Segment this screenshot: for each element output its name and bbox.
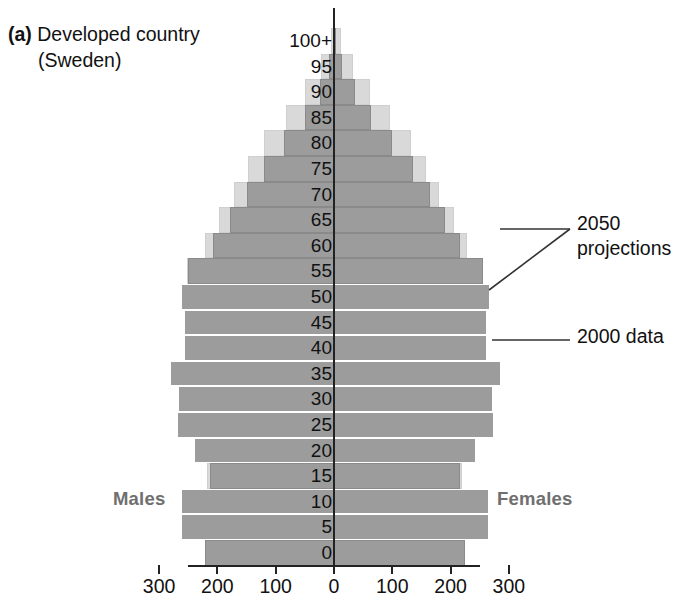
bar-2000-female bbox=[334, 489, 489, 515]
age-band bbox=[0, 130, 690, 156]
bar-2000-female bbox=[334, 463, 460, 489]
age-band bbox=[0, 105, 690, 131]
bar-2000-female bbox=[334, 207, 445, 233]
age-label: 55 bbox=[266, 258, 332, 284]
age-band bbox=[0, 514, 690, 540]
bar-2000-female bbox=[334, 105, 371, 131]
age-label: 85 bbox=[266, 105, 332, 131]
bar-2000-female bbox=[334, 310, 487, 336]
age-label: 80 bbox=[266, 130, 332, 156]
age-band bbox=[0, 412, 690, 438]
bar-2000-female bbox=[334, 54, 342, 80]
annotation-2050-projections: 2050 projections bbox=[577, 211, 671, 262]
bar-2000-female bbox=[334, 361, 501, 387]
age-band bbox=[0, 284, 690, 310]
age-band bbox=[0, 361, 690, 387]
x-axis-tick bbox=[275, 565, 277, 574]
bar-2000-female bbox=[334, 130, 392, 156]
age-label: 65 bbox=[266, 207, 332, 233]
x-axis-tick bbox=[450, 565, 452, 574]
bar-2000-female bbox=[334, 182, 430, 208]
age-band bbox=[0, 386, 690, 412]
x-axis-tick bbox=[216, 565, 218, 574]
age-label: 75 bbox=[266, 156, 332, 182]
age-label: 5 bbox=[266, 514, 332, 540]
age-label: 60 bbox=[266, 233, 332, 259]
age-label: 95 bbox=[266, 54, 332, 80]
age-band bbox=[0, 182, 690, 208]
plot-area: 100+959085807570656055504540353025201510… bbox=[0, 0, 690, 613]
age-band bbox=[0, 54, 690, 80]
age-band bbox=[0, 258, 690, 284]
center-axis-line bbox=[333, 8, 335, 565]
age-label: 50 bbox=[266, 284, 332, 310]
age-band bbox=[0, 489, 690, 515]
bar-2000-female bbox=[334, 258, 483, 284]
age-label: 70 bbox=[266, 182, 332, 208]
annotation-2050-line2: projections bbox=[577, 236, 671, 261]
bar-2000-female bbox=[334, 386, 493, 412]
males-label: Males bbox=[113, 488, 165, 510]
age-label: 25 bbox=[266, 412, 332, 438]
age-label: 100+ bbox=[266, 28, 332, 54]
age-band bbox=[0, 540, 690, 566]
age-label: 30 bbox=[266, 386, 332, 412]
age-band bbox=[0, 79, 690, 105]
age-label: 20 bbox=[266, 438, 332, 464]
bar-2000-female bbox=[334, 335, 487, 361]
x-axis-tick bbox=[333, 565, 335, 574]
bar-2000-female bbox=[334, 233, 460, 259]
age-band bbox=[0, 438, 690, 464]
x-axis-tick-label: 300 bbox=[474, 575, 544, 598]
x-axis-tick bbox=[158, 565, 160, 574]
age-label: 35 bbox=[266, 361, 332, 387]
x-axis-tick bbox=[391, 565, 393, 574]
bar-2000-female bbox=[334, 514, 489, 540]
annotation-2000-data: 2000 data bbox=[577, 324, 664, 349]
annotation-2050-line1: 2050 bbox=[577, 211, 671, 236]
bar-2000-female bbox=[334, 540, 465, 566]
females-label: Females bbox=[497, 488, 572, 510]
age-label: 15 bbox=[266, 463, 332, 489]
bar-2000-female bbox=[334, 438, 476, 464]
bar-2000-female bbox=[334, 79, 355, 105]
age-label: 90 bbox=[266, 79, 332, 105]
age-label: 10 bbox=[266, 489, 332, 515]
bar-2000-female bbox=[334, 156, 413, 182]
x-axis-tick bbox=[508, 565, 510, 574]
age-band bbox=[0, 156, 690, 182]
bar-2000-female bbox=[334, 284, 490, 310]
age-band bbox=[0, 463, 690, 489]
age-label: 45 bbox=[266, 310, 332, 336]
population-pyramid-figure: (a) Developed country (Sweden) 100+95908… bbox=[0, 0, 690, 613]
age-label: 0 bbox=[266, 540, 332, 566]
bar-2000-female bbox=[334, 412, 494, 438]
age-label: 40 bbox=[266, 335, 332, 361]
age-band bbox=[0, 28, 690, 54]
